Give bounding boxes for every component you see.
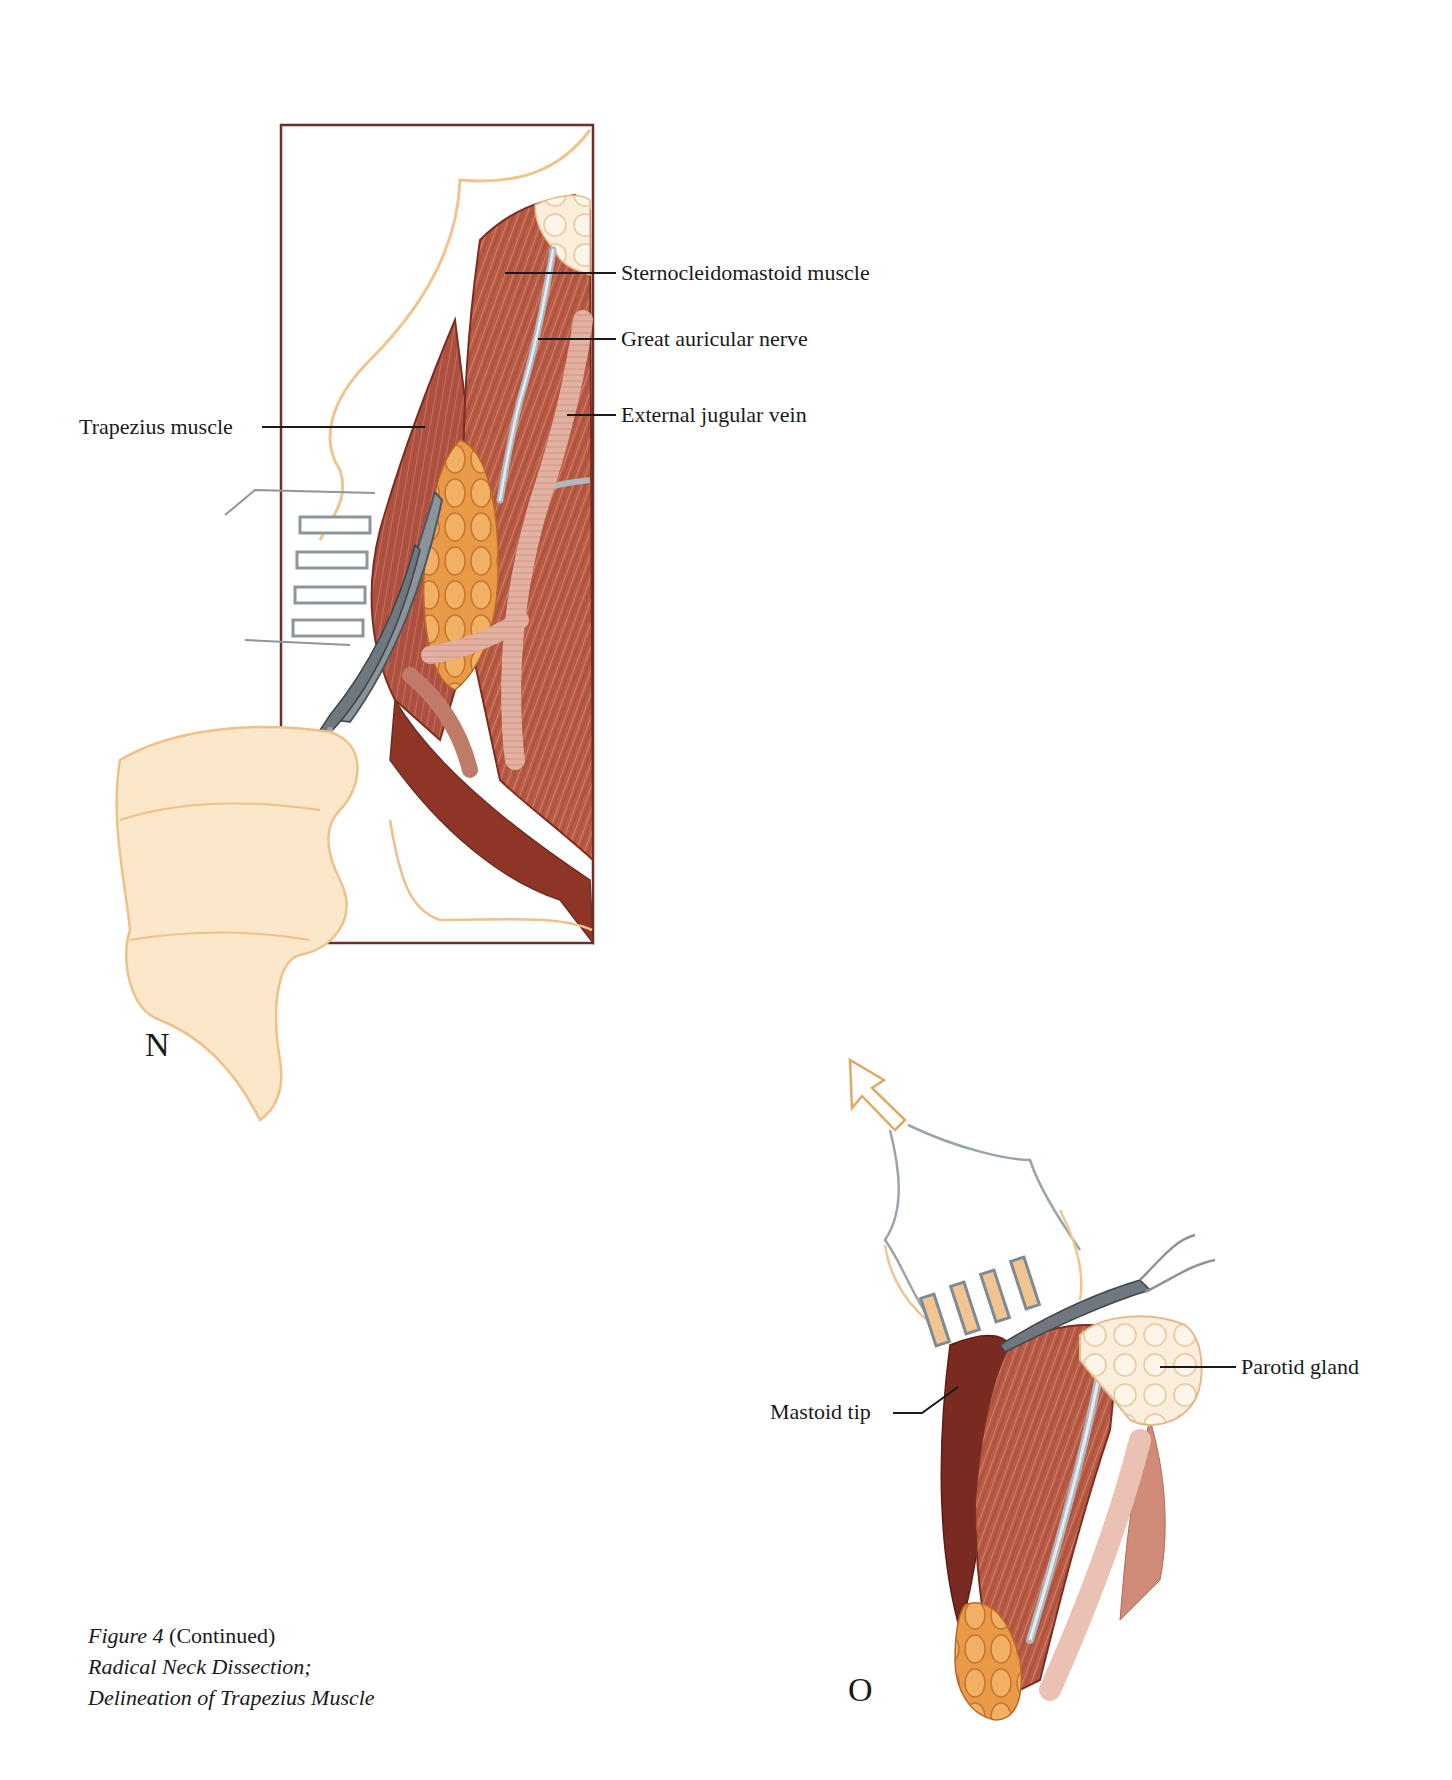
caption-figure-label: Figure 4	[88, 1623, 164, 1648]
skin-outline-o	[885, 1125, 1080, 1320]
figure-caption: Figure 4 (Continued) Radical Neck Dissec…	[88, 1620, 375, 1713]
label-external-jugular-vein: External jugular vein	[621, 404, 807, 426]
label-great-auricular-nerve: Great auricular nerve	[621, 328, 808, 350]
retraction-arrow	[850, 1060, 905, 1130]
label-parotid-gland: Parotid gland	[1241, 1356, 1359, 1378]
panel-n-illustration	[117, 125, 616, 1120]
retractor-n	[225, 490, 375, 645]
label-mastoid-tip: Mastoid tip	[770, 1401, 871, 1423]
caption-line-1: Figure 4 (Continued)	[88, 1620, 375, 1651]
label-sternocleidomastoid-muscle: Sternocleidomastoid muscle	[621, 262, 870, 284]
caption-line-2: Radical Neck Dissection;	[88, 1651, 375, 1682]
panel-letter-o: O	[848, 1673, 873, 1707]
panel-o-illustration	[850, 1060, 1236, 1720]
label-trapezius-muscle: Trapezius muscle	[79, 416, 233, 438]
caption-line-3: Delineation of Trapezius Muscle	[88, 1682, 375, 1713]
caption-continued: (Continued)	[169, 1623, 275, 1648]
panel-letter-n: N	[145, 1028, 170, 1062]
